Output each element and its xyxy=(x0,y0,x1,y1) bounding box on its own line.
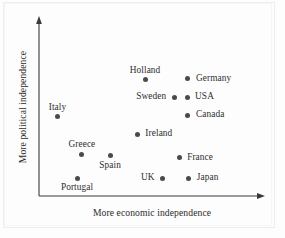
data-label-spain: Spain xyxy=(99,161,121,170)
data-label-holland: Holland xyxy=(130,65,161,74)
data-label-italy: Italy xyxy=(49,103,67,112)
data-point-sweden xyxy=(172,95,177,100)
y-axis-label: More political independence xyxy=(17,51,28,163)
y-axis-arrowhead xyxy=(36,16,42,24)
data-label-canada: Canada xyxy=(196,110,224,119)
data-label-ireland: Ireland xyxy=(145,130,172,139)
data-label-sweden: Sweden xyxy=(136,93,166,102)
data-label-france: France xyxy=(187,153,213,162)
scatter-plot-figure: HollandGermanySwedenUSACanadaItalyIrelan… xyxy=(0,0,285,238)
data-point-ireland xyxy=(135,132,140,137)
data-label-japan: Japan xyxy=(197,174,219,183)
plot-area: HollandGermanySwedenUSACanadaItalyIrelan… xyxy=(0,0,285,238)
data-point-usa xyxy=(185,95,190,100)
x-axis-arrowhead xyxy=(257,193,265,199)
data-point-uk xyxy=(160,176,165,181)
data-label-greece: Greece xyxy=(68,140,95,149)
data-label-germany: Germany xyxy=(196,74,231,83)
data-label-uk: UK xyxy=(141,174,155,183)
data-label-usa: USA xyxy=(195,93,214,102)
data-label-portugal: Portugal xyxy=(61,183,93,192)
data-point-holland xyxy=(143,77,148,82)
chart-axes xyxy=(0,0,285,238)
data-point-portugal xyxy=(75,176,80,181)
x-axis-label: More economic independence xyxy=(93,207,211,218)
